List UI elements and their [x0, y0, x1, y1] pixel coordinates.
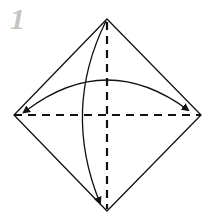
origami-diagram	[0, 0, 212, 219]
vertical-fold-arrow-icon	[82, 21, 106, 203]
